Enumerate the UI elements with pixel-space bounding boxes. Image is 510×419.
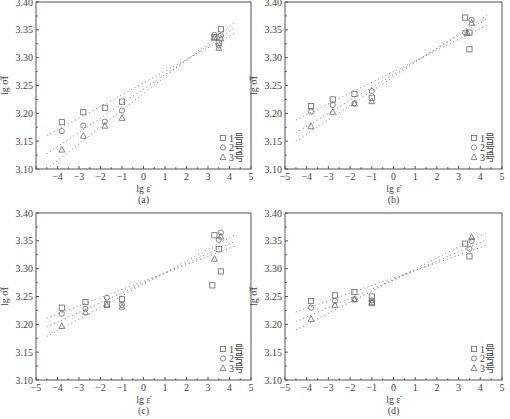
series-triangle: [308, 19, 474, 128]
square-marker: [119, 99, 124, 104]
y-tick-label: 3.35: [265, 24, 283, 35]
fit-line: [47, 33, 236, 136]
x-tick-label: −1: [117, 382, 128, 393]
x-tick-label: 0: [141, 382, 146, 393]
x-tick-label: 1: [413, 382, 418, 393]
square-marker: [83, 299, 88, 304]
y-axis-label: lg σ̂f: [0, 286, 10, 306]
x-tick-label: 2: [434, 382, 439, 393]
circle-marker: [81, 123, 86, 128]
fit-line: [47, 27, 236, 154]
x-axis-label: lg ε̇: [386, 394, 401, 405]
x-tick-label: 1: [413, 171, 418, 182]
legend-label: 3号: [480, 152, 495, 163]
y-tick-label: 3.30: [265, 52, 283, 63]
x-axis-label: lg ε̇: [386, 183, 401, 194]
x-tick-label: 5: [249, 382, 254, 393]
x-tick-label: −3: [74, 382, 85, 393]
x-tick-label: −2: [345, 382, 356, 393]
legend: 1号2号3号: [220, 344, 244, 374]
x-tick-label: 5: [249, 171, 254, 182]
square-marker: [463, 241, 468, 246]
y-tick-label: 3.15: [265, 347, 283, 358]
y-tick-label: 3.40: [16, 208, 34, 219]
fit-line: [296, 232, 487, 329]
square-marker: [471, 135, 476, 140]
x-tick-label: 2: [434, 171, 439, 182]
legend: 1号2号3号: [471, 133, 495, 163]
square-marker: [210, 283, 215, 288]
y-tick-label: 3.10: [265, 164, 283, 175]
y-tick-label: 3.35: [265, 235, 283, 246]
panel-caption: (a): [138, 194, 149, 206]
x-tick-label: −3: [323, 382, 334, 393]
circle-marker: [330, 102, 335, 107]
x-tick-label: 2: [184, 382, 189, 393]
series-triangle: [59, 35, 224, 153]
y-axis-label: lg σ̂f: [248, 75, 259, 95]
x-tick-label: −2: [95, 171, 106, 182]
panel-caption: (b): [388, 194, 400, 206]
x-tick-label: −3: [323, 171, 334, 182]
square-marker: [59, 305, 64, 310]
series-square: [59, 233, 223, 311]
x-tick-label: −1: [366, 382, 377, 393]
triangle-marker: [308, 123, 314, 129]
series-triangle: [308, 234, 474, 322]
y-tick-label: 3.25: [16, 291, 34, 302]
square-marker: [212, 233, 217, 238]
x-tick-label: −1: [366, 171, 377, 182]
circle-marker: [467, 246, 472, 251]
y-tick-label: 3.25: [265, 291, 283, 302]
fit-line: [47, 234, 236, 336]
series-circle: [59, 32, 223, 134]
triangle-marker: [469, 234, 475, 240]
y-tick-label: 3.30: [265, 263, 283, 274]
legend-label: 3号: [480, 363, 495, 374]
square-marker: [81, 110, 86, 115]
triangle-marker: [220, 154, 226, 160]
x-axis-label: lg ε̇: [136, 183, 151, 194]
legend-label: 3号: [229, 363, 244, 374]
figure-canvas: −4−3−2−10123453.103.153.203.253.303.353.…: [0, 0, 510, 419]
x-tick-label: −4: [301, 382, 312, 393]
fit-line: [296, 15, 487, 141]
circle-marker: [119, 108, 124, 113]
square-marker: [220, 346, 225, 351]
circle-marker: [220, 145, 225, 150]
x-tick-label: 3: [206, 382, 211, 393]
y-tick-label: 3.10: [265, 375, 283, 386]
triangle-marker: [59, 146, 65, 152]
square-marker: [218, 269, 223, 274]
y-tick-label: 3.15: [16, 347, 34, 358]
square-marker: [467, 254, 472, 259]
circle-marker: [220, 356, 225, 361]
series-circle: [59, 230, 223, 316]
x-tick-label: 2: [184, 171, 189, 182]
y-tick-label: 3.35: [16, 235, 34, 246]
x-tick-label: 0: [391, 171, 396, 182]
y-tick-label: 3.40: [265, 208, 283, 219]
series-triangle: [59, 233, 224, 328]
square-marker: [332, 293, 337, 298]
square-marker: [102, 105, 107, 110]
y-tick-label: 3.40: [265, 0, 283, 8]
x-tick-label: 1: [163, 382, 168, 393]
legend: 1号2号3号: [220, 133, 244, 163]
x-axis-label: lg ε̇: [136, 394, 151, 405]
square-marker: [59, 120, 64, 125]
triangle-marker: [80, 133, 86, 139]
series-square: [308, 241, 472, 306]
square-marker: [463, 15, 468, 20]
chart-panel-c: −5−4−3−2−10123453.103.153.203.253.303.35…: [0, 208, 254, 418]
square-marker: [220, 135, 225, 140]
chart-panel-a: −4−3−2−10123453.103.153.203.253.303.353.…: [0, 0, 254, 206]
x-tick-label: 5: [500, 171, 505, 182]
square-marker: [218, 27, 223, 32]
fit-line: [296, 240, 487, 322]
x-tick-label: 0: [391, 382, 396, 393]
fit-line: [296, 245, 487, 312]
y-tick-label: 3.10: [16, 375, 34, 386]
x-tick-label: −4: [52, 171, 63, 182]
series-square: [308, 15, 472, 109]
